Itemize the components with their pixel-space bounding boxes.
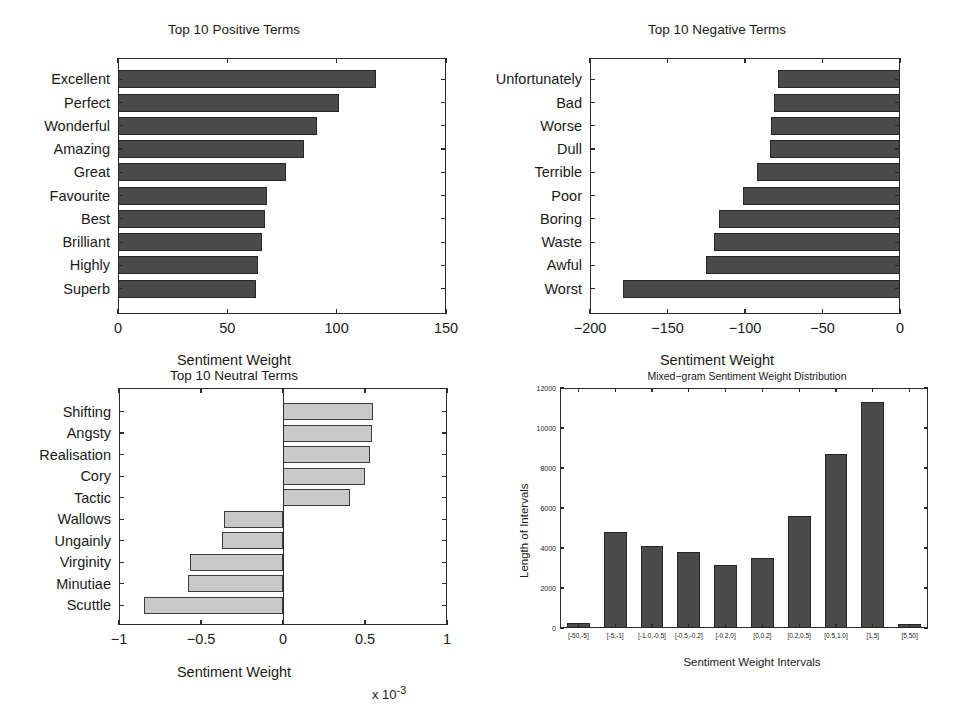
- category-label-negative: Boring: [464, 211, 582, 227]
- category-label-negative: Awful: [464, 257, 582, 273]
- xtick-mark-top-negative: [899, 58, 900, 63]
- xtick-mark-top-negative: [744, 58, 745, 63]
- ytick-mark-right-distribution: [924, 427, 928, 428]
- ytick-right-neutral: [442, 519, 447, 520]
- ytick-neutral: [119, 411, 124, 412]
- ytick-negative: [590, 125, 595, 126]
- bar-distribution: [825, 454, 848, 628]
- xtick-mark-distribution: [872, 624, 873, 628]
- ytick-right-positive: [441, 79, 446, 80]
- category-label-positive: Perfect: [0, 95, 110, 111]
- xtick-mark-top-positive: [445, 58, 446, 63]
- ytick-neutral: [119, 583, 124, 584]
- xtick-mark-top-distribution: [688, 388, 689, 392]
- ytick-negative: [590, 172, 595, 173]
- bar-positive: [118, 280, 256, 298]
- xtick-mark-top-negative: [667, 58, 668, 63]
- ytick-positive: [118, 195, 123, 196]
- xtick-mark-distribution: [909, 624, 910, 628]
- ytick-positive: [118, 242, 123, 243]
- xtick-label-positive: 100: [325, 320, 349, 336]
- ytick-right-neutral: [442, 583, 447, 584]
- category-label-positive: Highly: [0, 257, 110, 273]
- ytick-negative: [590, 288, 595, 289]
- ytick-right-negative: [895, 102, 900, 103]
- ytick-right-neutral: [442, 432, 447, 433]
- xtick-mark-top-negative: [822, 58, 823, 63]
- category-label-neutral: Shifting: [0, 404, 111, 420]
- chart-positive-terms: Top 10 Positive Terms Sentiment Weight E…: [0, 22, 478, 372]
- ytick-positive: [118, 125, 123, 126]
- xtick-mark-negative: [822, 309, 823, 314]
- ytick-right-neutral: [442, 540, 447, 541]
- bar-negative: [757, 163, 900, 181]
- category-label-positive: Favourite: [0, 188, 110, 204]
- bar-negative: [774, 94, 900, 112]
- xtick-label-distribution: [-0.5,-0.2]: [675, 632, 703, 639]
- xtick-mark-top-distribution: [799, 388, 800, 392]
- ytick-positive: [118, 102, 123, 103]
- xtick-label-distribution: [-5,-1]: [607, 632, 624, 639]
- ytick-mark-right-distribution: [924, 387, 928, 388]
- xtick-mark-distribution: [688, 624, 689, 628]
- xtick-mark-neutral: [118, 620, 119, 625]
- bar-neutral: [283, 489, 350, 506]
- category-label-neutral: Scuttle: [0, 597, 111, 613]
- ytick-mark-distribution: [560, 387, 564, 388]
- bar-negative: [623, 280, 900, 298]
- ytick-positive: [118, 172, 123, 173]
- bar-neutral: [222, 532, 283, 549]
- ytick-label-distribution: 12000: [524, 385, 556, 392]
- xtick-label-neutral: 0.5: [355, 631, 375, 647]
- axis-label-distribution-y: Length of Intervals: [518, 483, 530, 578]
- chart-title-neutral: Top 10 Neutral Terms: [0, 368, 473, 383]
- category-label-neutral: Minutiae: [0, 576, 111, 592]
- ytick-right-positive: [441, 288, 446, 289]
- bar-distribution: [788, 516, 811, 628]
- ytick-positive: [118, 79, 123, 80]
- bar-negative: [770, 140, 900, 158]
- bar-distribution: [714, 565, 737, 628]
- xtick-label-negative: 0: [896, 320, 904, 336]
- xtick-mark-top-negative: [589, 58, 590, 63]
- xtick-label-negative: −150: [651, 320, 684, 336]
- ytick-mark-distribution: [560, 507, 564, 508]
- chart-weight-distribution: Mixed−gram Sentiment Weight Distribution…: [478, 368, 956, 717]
- ytick-mark-distribution: [560, 427, 564, 428]
- category-label-neutral: Virginity: [0, 554, 111, 570]
- neutral-exponent-power: -3: [397, 684, 407, 696]
- ytick-right-neutral: [442, 476, 447, 477]
- ytick-neutral: [119, 454, 124, 455]
- ytick-neutral: [119, 519, 124, 520]
- bar-positive: [118, 187, 267, 205]
- bar-positive: [118, 70, 376, 88]
- xtick-mark-top-positive: [336, 58, 337, 63]
- ytick-right-positive: [441, 172, 446, 173]
- xtick-mark-positive: [227, 309, 228, 314]
- category-label-negative: Waste: [464, 234, 582, 250]
- bar-neutral: [283, 446, 370, 463]
- axis-label-negative-x: Sentiment Weight: [478, 352, 956, 368]
- bar-neutral: [283, 425, 372, 442]
- category-label-neutral: Angsty: [0, 425, 111, 441]
- xtick-label-negative: −50: [810, 320, 835, 336]
- category-label-positive: Excellent: [0, 71, 110, 87]
- ytick-negative: [590, 218, 595, 219]
- xtick-mark-top-neutral: [200, 388, 201, 393]
- xtick-mark-top-positive: [227, 58, 228, 63]
- xtick-mark-distribution: [835, 624, 836, 628]
- ytick-right-positive: [441, 195, 446, 196]
- xtick-mark-distribution: [578, 624, 579, 628]
- xtick-mark-top-distribution: [835, 388, 836, 392]
- ytick-label-distribution: 6000: [524, 505, 556, 512]
- category-label-negative: Worse: [464, 118, 582, 134]
- ytick-right-negative: [895, 195, 900, 196]
- xtick-label-neutral: −1: [111, 631, 128, 647]
- axis-label-positive-x: Sentiment Weight: [0, 352, 473, 368]
- zero-line-neutral: [283, 388, 284, 625]
- ytick-right-neutral: [442, 562, 447, 563]
- ytick-right-negative: [895, 218, 900, 219]
- bar-distribution: [751, 558, 774, 628]
- xtick-mark-distribution: [615, 624, 616, 628]
- xtick-mark-top-distribution: [872, 388, 873, 392]
